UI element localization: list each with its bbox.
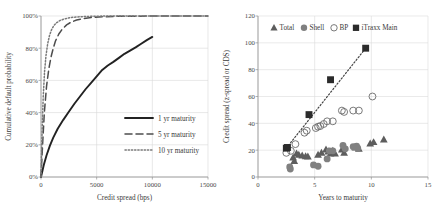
y-tick-label: 60 bbox=[248, 93, 255, 100]
x-tick-label: 15 bbox=[425, 181, 432, 188]
data-point bbox=[284, 144, 291, 151]
y-tick-label: 100% bbox=[22, 12, 38, 19]
data-point bbox=[329, 147, 336, 154]
y-axis-title: Credit spread (z-spread or CDS) bbox=[223, 49, 231, 143]
data-point bbox=[341, 108, 348, 115]
legend-label-0: 1 yr maturity bbox=[158, 115, 196, 123]
y-tick-label: 20% bbox=[26, 141, 39, 148]
x-tick-label: 10000 bbox=[144, 181, 162, 188]
data-point bbox=[342, 145, 349, 152]
x-axis-title: Credit spread (bps) bbox=[97, 194, 153, 202]
y-tick-label: 80% bbox=[26, 45, 39, 52]
legend-label-3: iTraxx Main bbox=[362, 24, 398, 32]
y-tick-label: 0 bbox=[252, 173, 256, 180]
legend-label-0: Total bbox=[280, 24, 295, 32]
data-point bbox=[362, 45, 369, 52]
data-point bbox=[315, 163, 322, 170]
data-point bbox=[287, 166, 294, 173]
y-tick-label: 80 bbox=[248, 66, 255, 73]
y-tick-label: 100 bbox=[245, 39, 256, 46]
series-total bbox=[289, 135, 387, 163]
data-point bbox=[380, 135, 388, 142]
two-panel-figure: 0%20%40%60%80%100%0500010000150001 yr ma… bbox=[0, 0, 437, 220]
x-tick-label: 5 bbox=[313, 181, 317, 188]
legend-marker-1 bbox=[301, 25, 307, 31]
credit-spread-scatter-chart: 020406080100120051015TotalShellBPiTraxx … bbox=[218, 0, 437, 220]
cumulative-default-probability-chart: 0%20%40%60%80%100%0500010000150001 yr ma… bbox=[0, 0, 218, 220]
x-tick-label: 5000 bbox=[90, 181, 104, 188]
series-bp bbox=[283, 93, 376, 156]
data-point bbox=[292, 141, 299, 148]
x-tick-label: 0 bbox=[39, 181, 43, 188]
x-tick-label: 0 bbox=[256, 181, 260, 188]
y-tick-label: 20 bbox=[248, 147, 255, 154]
legend-marker-3 bbox=[353, 25, 359, 31]
legend-label-2: 10 yr maturity bbox=[158, 147, 200, 155]
data-point bbox=[324, 155, 331, 162]
x-axis-title: Years to maturity bbox=[318, 194, 368, 202]
data-point bbox=[306, 111, 313, 118]
x-tick-label: 10 bbox=[368, 181, 375, 188]
trendline bbox=[286, 48, 365, 148]
legend-label-2: BP bbox=[340, 24, 349, 32]
chart-panel-right: 020406080100120051015TotalShellBPiTraxx … bbox=[218, 0, 437, 220]
data-point bbox=[354, 145, 361, 152]
y-tick-label: 120 bbox=[245, 12, 256, 19]
legend-marker-0 bbox=[270, 24, 277, 30]
data-point bbox=[327, 76, 334, 83]
y-tick-label: 0% bbox=[29, 173, 38, 180]
legend-label-1: Shell bbox=[310, 24, 325, 32]
legend-label-1: 5 yr maturity bbox=[158, 131, 196, 139]
y-tick-label: 60% bbox=[26, 77, 39, 84]
chart-panel-left: 0%20%40%60%80%100%0500010000150001 yr ma… bbox=[0, 0, 218, 220]
y-tick-label: 40 bbox=[248, 120, 255, 127]
y-tick-label: 40% bbox=[26, 109, 39, 116]
x-tick-label: 15000 bbox=[200, 181, 218, 188]
y-axis-title: Cumulative default probability bbox=[5, 52, 13, 141]
legend-marker-2 bbox=[331, 25, 337, 31]
